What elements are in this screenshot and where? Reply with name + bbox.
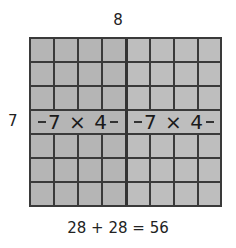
left-part-label-band: 7 × 4 [31, 111, 125, 133]
array-grid: 7 × 4 7 × 4 [29, 37, 222, 207]
dash-marker [38, 121, 46, 123]
dash-marker [134, 121, 142, 123]
right-part-label-band: 7 × 4 [128, 111, 220, 133]
dash-marker [110, 121, 118, 123]
dash-marker [206, 121, 214, 123]
columns-label: 8 [0, 11, 236, 29]
sum-equation: 28 + 28 = 56 [0, 219, 236, 237]
rows-label: 7 [8, 112, 18, 130]
left-part-label: 7 × 4 [46, 110, 110, 134]
right-part-label: 7 × 4 [142, 110, 206, 134]
